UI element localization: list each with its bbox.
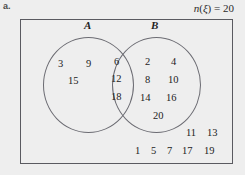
element-intersection: 6: [114, 56, 119, 67]
element-a-only: 15: [68, 75, 79, 86]
element-outside: 19: [204, 145, 215, 156]
element-b-only: 20: [153, 110, 164, 121]
element-b-only: 8: [145, 74, 150, 85]
element-outside: 13: [207, 127, 218, 138]
element-outside: 1: [135, 145, 140, 156]
element-outside: 5: [151, 145, 156, 156]
set-a-label: A: [84, 19, 91, 31]
element-b-only: 16: [166, 92, 177, 103]
element-outside: 11: [186, 127, 196, 138]
equals-sign: =: [211, 2, 223, 14]
element-b-only: 14: [140, 92, 151, 103]
element-intersection: 18: [111, 91, 122, 102]
set-b-label: B: [151, 19, 158, 31]
universal-set-cardinality: n(ξ) = 20: [194, 2, 234, 14]
element-a-only: 3: [58, 58, 63, 69]
element-outside: 7: [167, 145, 172, 156]
universal-set-count: 20: [223, 2, 234, 14]
element-b-only: 2: [145, 56, 150, 67]
element-b-only: 4: [171, 56, 176, 67]
element-a-only: 9: [86, 58, 91, 69]
part-label: a.: [3, 1, 11, 11]
element-intersection: 12: [111, 73, 122, 84]
element-b-only: 10: [168, 74, 179, 85]
element-outside: 17: [182, 145, 193, 156]
venn-diagram-figure: a. n(ξ) = 20 A B 3 9 15 6 12 18 2 4 8 10…: [0, 0, 245, 175]
